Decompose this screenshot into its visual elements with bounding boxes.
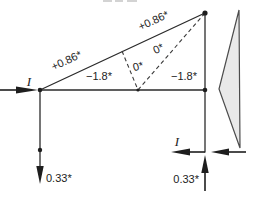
bottom-chord-left-force-label: −1.8*: [86, 70, 113, 82]
influence-polygon: [219, 10, 240, 148]
long-diagonal-force-label: 0*: [151, 40, 166, 56]
crop-mark: [103, 0, 112, 2]
left-load-label: I: [26, 74, 32, 89]
cropped-text-fragment: [103, 0, 137, 2]
top-chord-right-force-label: +0.86*: [136, 8, 171, 33]
crop-mark: [127, 0, 137, 2]
diagram-canvas: +0.86* +0.86* −1.8* −1.8* 0* 0* I I 0.33…: [0, 0, 253, 198]
polygon-base-arrow: [211, 149, 246, 156]
node-bottom-mid: [136, 88, 139, 91]
right-reaction-arrowhead-icon: [201, 155, 208, 173]
crop-mark: [115, 0, 123, 2]
left-reaction-arrow: [36, 166, 43, 184]
node-top-right: [202, 10, 207, 15]
truss-diagram-figure: +0.86* +0.86* −1.8* −1.8* 0* 0* I I 0.33…: [0, 0, 253, 198]
left-load-arrow: [0, 86, 38, 93]
bottom-chord-right-force-label: −1.8*: [171, 70, 198, 82]
node-bottom-right: [203, 88, 208, 93]
top-chord-left-force-label: +0.86*: [49, 48, 84, 73]
right-reaction-arrow: [201, 155, 208, 191]
left-reaction-value-label: 0.33*: [46, 172, 72, 184]
right-reaction-value-label: 0.33*: [173, 173, 199, 185]
node-left-lower: [38, 148, 42, 152]
right-load-arrowhead-icon: [171, 149, 190, 156]
polygon-base-arrowhead-icon: [211, 149, 229, 156]
right-load-arrow: [171, 149, 205, 156]
left-reaction-arrowhead-icon: [36, 166, 43, 184]
short-diagonal-force-label: 0*: [131, 59, 145, 73]
node-left: [38, 88, 43, 93]
right-load-label: I: [174, 134, 180, 149]
